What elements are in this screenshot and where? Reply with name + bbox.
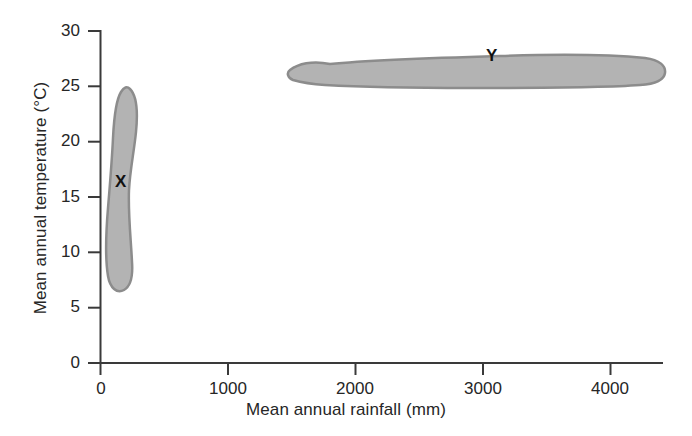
x-tick-label-3000: 3000 [443, 379, 523, 399]
x-tick-label-1000: 1000 [188, 379, 268, 399]
y-axis-title: Mean annual temperature (°C) [31, 18, 51, 378]
x-tick-label-4000: 4000 [570, 379, 650, 399]
region-y-blob [288, 55, 665, 88]
x-tick-label-0: 0 [61, 379, 141, 399]
x-axis-title: Mean annual rainfall (mm) [0, 400, 692, 420]
region-x-label: X [115, 172, 126, 192]
region-y-label: Y [486, 46, 497, 66]
x-axis-ticks [101, 363, 611, 375]
chart-container: 30 25 20 15 10 5 0 0 1000 2000 3000 4000… [0, 0, 692, 436]
x-tick-label-2000: 2000 [315, 379, 395, 399]
y-axis-ticks [88, 31, 100, 363]
plot-area [0, 0, 692, 436]
